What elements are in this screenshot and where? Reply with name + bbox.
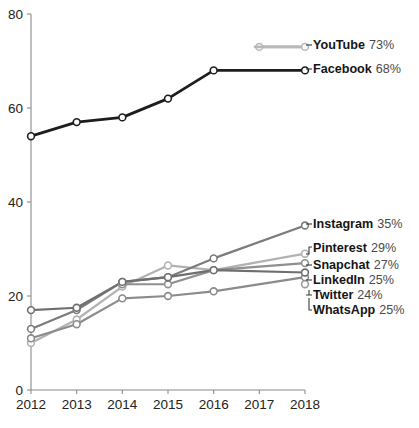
data-point-linkedin-2013 — [73, 304, 80, 311]
y-tick-label: 40 — [8, 195, 23, 210]
data-point-facebook-2016 — [210, 67, 217, 74]
data-point-facebook-2013 — [73, 119, 80, 126]
data-point-twitter-2016 — [210, 288, 217, 295]
data-point-linkedin-2015 — [165, 274, 172, 281]
data-point-snapchat-2015 — [165, 281, 172, 288]
legend-value-instagram: 35% — [377, 217, 402, 231]
legend-label-youtube: YouTube — [313, 38, 365, 52]
legend-entry-facebook: Facebook68% — [313, 62, 401, 76]
legend-value-snapchat: 27% — [374, 258, 399, 272]
data-point-whatsapp-2018 — [302, 281, 309, 288]
data-point-linkedin-2012 — [28, 307, 35, 314]
data-point-instagram-2016 — [210, 255, 217, 262]
series-line-facebook — [31, 70, 305, 136]
legend-value-youtube: 73% — [369, 38, 394, 52]
data-point-twitter-2012 — [28, 335, 35, 342]
legend-label-pinterest: Pinterest — [313, 241, 368, 255]
x-tick-label: 2012 — [16, 397, 46, 412]
legend-label-whatsapp: WhatsApp — [313, 303, 376, 317]
data-point-instagram-2018 — [302, 222, 309, 229]
legend-entry-pinterest: Pinterest29% — [313, 241, 396, 255]
legend-entry-youtube: YouTube73% — [313, 38, 394, 52]
data-point-pinterest-2015 — [165, 262, 172, 269]
y-tick-label: 60 — [8, 101, 23, 116]
legend-leader-whatsapp — [309, 298, 312, 310]
data-point-twitter-2014 — [119, 295, 126, 302]
legend-label-facebook: Facebook — [313, 62, 373, 76]
data-point-linkedin-2016 — [210, 267, 217, 274]
data-point-facebook-2012 — [28, 133, 35, 140]
data-point-twitter-2015 — [165, 293, 172, 300]
legend-entry-linkedin: LinkedIn25% — [313, 273, 394, 287]
legend-label-instagram: Instagram — [313, 217, 373, 231]
chart-canvas: 0204060802012201320142015201620172018You… — [0, 0, 419, 428]
data-point-instagram-2012 — [28, 326, 35, 333]
data-point-linkedin-2014 — [119, 279, 126, 286]
social-media-usage-line-chart: 0204060802012201320142015201620172018You… — [0, 0, 419, 428]
legend-label-snapchat: Snapchat — [313, 258, 370, 272]
legend-leader-twitter — [306, 290, 312, 295]
legend-entry-instagram: Instagram35% — [313, 217, 402, 231]
x-tick-label: 2017 — [244, 397, 274, 412]
legend-value-linkedin: 25% — [369, 273, 394, 287]
legend-entry-snapchat: Snapchat27% — [313, 258, 399, 272]
legend-value-facebook: 68% — [376, 62, 401, 76]
x-tick-label: 2014 — [107, 397, 138, 412]
x-tick-label: 2013 — [62, 397, 92, 412]
y-tick-label: 80 — [8, 7, 23, 22]
data-point-facebook-2015 — [165, 95, 172, 102]
x-tick-label: 2018 — [290, 397, 320, 412]
data-point-linkedin-2018 — [302, 269, 309, 276]
y-tick-label: 20 — [8, 289, 23, 304]
legend-value-whatsapp: 25% — [379, 303, 404, 317]
data-point-facebook-2014 — [119, 114, 126, 121]
legend-label-twitter: Twitter — [313, 288, 353, 302]
data-point-twitter-2013 — [73, 321, 80, 328]
legend-value-twitter: 24% — [357, 288, 382, 302]
x-tick-label: 2015 — [153, 397, 183, 412]
legend-value-pinterest: 29% — [371, 241, 396, 255]
legend-entry-twitter: Twitter24% — [313, 288, 383, 302]
y-tick-label: 0 — [15, 383, 23, 398]
legend-entry-whatsapp: WhatsApp25% — [313, 303, 404, 317]
data-point-facebook-2018 — [302, 67, 309, 74]
legend-label-linkedin: LinkedIn — [313, 273, 365, 287]
x-tick-label: 2016 — [199, 397, 229, 412]
